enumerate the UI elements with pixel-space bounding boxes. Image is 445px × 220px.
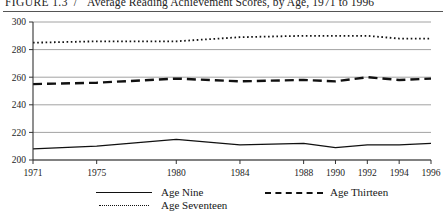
figure-number: FIGURE 1.3 <box>5 0 68 8</box>
x-tick-label: 1990 <box>326 168 345 178</box>
series-line-age-thirteen <box>33 77 431 84</box>
figure-container: FIGURE 1.3/Average Reading Achievement S… <box>0 0 445 220</box>
dotted-line-swatch-icon <box>96 200 152 211</box>
x-tick-label: 1994 <box>390 168 409 178</box>
legend-label-age-seventeen: Age Seventeen <box>161 200 227 211</box>
x-tick-label: 1996 <box>422 168 441 178</box>
y-tick-label: 220 <box>12 128 27 138</box>
y-axis-labels: 200220240260280300 <box>12 17 27 165</box>
y-tick-label: 260 <box>12 73 27 83</box>
legend-item-age-seventeen[interactable]: Age Seventeen <box>96 198 227 213</box>
solid-line-swatch-icon <box>96 187 152 198</box>
x-tick-label: 1992 <box>358 168 377 178</box>
x-tick-label: 1971 <box>24 168 43 178</box>
chart-plot-area: 200220240260280300 197119751980198419881… <box>0 14 445 186</box>
x-tick-label: 1984 <box>230 168 249 178</box>
figure-title: FIGURE 1.3/Average Reading Achievement S… <box>5 0 440 11</box>
chart-legend: Age Nine Age Thirteen Age Seventeen <box>0 185 445 220</box>
series-line-age-seventeen <box>33 36 431 43</box>
x-tick-label: 1988 <box>294 168 313 178</box>
legend-row-secondary: Age Seventeen <box>0 198 445 213</box>
x-tick-label: 1975 <box>87 168 106 178</box>
y-tick-label: 240 <box>12 100 27 110</box>
dashed-line-swatch-icon <box>265 187 321 198</box>
y-axis-ticks <box>29 22 33 160</box>
legend-label-age-nine: Age Nine <box>161 187 203 198</box>
x-tick-label: 1980 <box>167 168 186 178</box>
x-axis-ticks <box>33 160 431 164</box>
y-tick-label: 300 <box>12 17 27 27</box>
data-series <box>33 36 431 149</box>
figure-title-separator: / <box>68 0 87 8</box>
line-chart: 200220240260280300 197119751980198419881… <box>0 14 445 186</box>
figure-title-text: Average Reading Achievement Scores, by A… <box>87 0 374 8</box>
legend-label-age-thirteen: Age Thirteen <box>330 187 388 198</box>
y-tick-label: 280 <box>12 45 27 55</box>
y-tick-label: 200 <box>12 155 27 165</box>
title-divider <box>3 11 443 12</box>
gridlines <box>33 22 431 160</box>
x-axis-labels: 197119751980198419881990199219941996 <box>24 168 441 178</box>
series-line-age-nine <box>33 139 431 149</box>
